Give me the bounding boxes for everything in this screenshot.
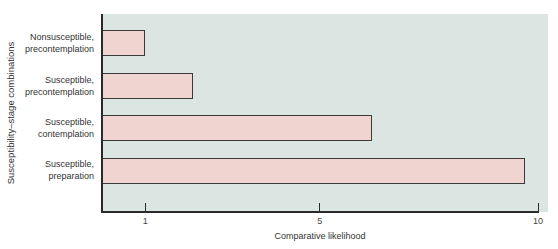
bar-susceptible-preparation (102, 158, 525, 184)
category-label-line: precontemplation (0, 86, 94, 98)
category-label-2: Susceptible, contemplation (0, 116, 94, 140)
category-label-1: Susceptible, precontemplation (0, 74, 94, 98)
bar-susceptible-precontemplation (102, 73, 194, 99)
category-label-line: Susceptible, (0, 74, 94, 86)
category-label-3: Susceptible, preparation (0, 158, 94, 182)
category-label-line: Susceptible, (0, 116, 94, 128)
category-label-0: Nonsusceptible, precontemplation (0, 31, 94, 55)
x-tick (145, 203, 146, 212)
x-axis-title: Comparative likelihood (274, 231, 365, 241)
x-tick (538, 203, 539, 212)
x-tick-label: 1 (143, 216, 148, 226)
category-label-line: Nonsusceptible, (0, 31, 94, 43)
bar-nonsusceptible-precontemplation (102, 30, 146, 56)
x-tick-label: 10 (533, 216, 543, 226)
horizontal-bar-chart: Susceptibility–stage combinations Nonsus… (0, 0, 558, 249)
bar-susceptible-contemplation (102, 115, 373, 141)
category-label-line: contemplation (0, 128, 94, 140)
category-label-line: preparation (0, 170, 94, 182)
category-label-line: precontemplation (0, 43, 94, 55)
category-label-line: Susceptible, (0, 158, 94, 170)
x-tick-label: 5 (317, 216, 322, 226)
x-tick (319, 203, 320, 212)
y-axis-line (101, 14, 103, 213)
